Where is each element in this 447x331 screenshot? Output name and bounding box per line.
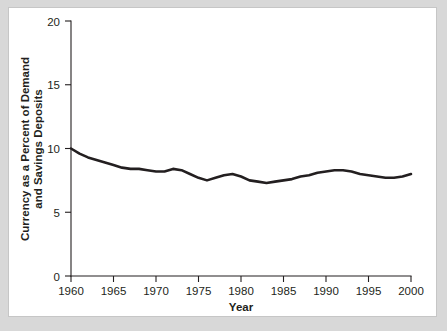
x-tick-label-1975: 1975 — [186, 285, 212, 297]
y-tick-label-0: 0 — [54, 271, 60, 283]
x-tick-label-1970: 1970 — [143, 285, 169, 297]
figure-card: 20 15 10 5 0 1960 1965 1970 1975 1980 19… — [8, 7, 437, 317]
x-tick-label-1965: 1965 — [101, 285, 127, 297]
y-tick-label-10: 10 — [47, 143, 60, 155]
x-tick-label-1980: 1980 — [228, 285, 254, 297]
x-axis-ticks — [71, 276, 411, 282]
x-tick-label-2000: 2000 — [398, 285, 424, 297]
data-series-line — [71, 149, 411, 183]
x-tick-label-1990: 1990 — [313, 285, 339, 297]
y-axis-title-line1: Currency as a Percent of Demand — [19, 57, 31, 241]
y-axis-title: Currency as a Percent of Demand and Savi… — [19, 57, 44, 241]
y-axis-title-line2: and Savings Deposits — [32, 89, 44, 209]
x-tick-label-1985: 1985 — [271, 285, 297, 297]
x-tick-label-1995: 1995 — [356, 285, 382, 297]
x-axis-title: Year — [229, 301, 254, 313]
x-tick-label-1960: 1960 — [58, 285, 84, 297]
y-tick-label-5: 5 — [54, 207, 60, 219]
currency-percent-line-chart: 20 15 10 5 0 1960 1965 1970 1975 1980 19… — [9, 8, 438, 318]
y-tick-label-20: 20 — [47, 16, 60, 28]
y-tick-label-15: 15 — [47, 79, 60, 91]
